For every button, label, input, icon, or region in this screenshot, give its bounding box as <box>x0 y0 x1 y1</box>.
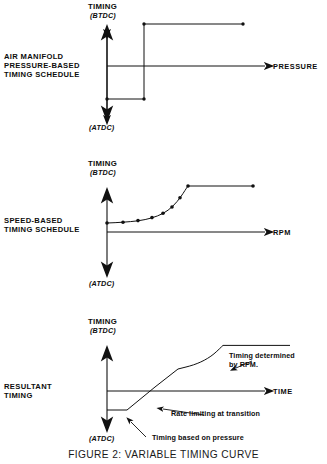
btdc-label-2: (BTDC) <box>90 168 116 177</box>
timing-axis-title-2: TIMING <box>88 159 117 168</box>
annotation-rate-limiting: Rate limiting at transition <box>171 410 260 419</box>
annotation-timing-by-rpm: Timing determined by RPM. <box>229 352 295 369</box>
atdc-label-1: (ATDC) <box>89 123 114 132</box>
time-axis-label: TIME <box>273 387 293 396</box>
row-label-air-manifold-pressure: AIR MANIFOLD PRESSURE-BASED TIMING SCHED… <box>4 52 80 80</box>
btdc-label-3: (BTDC) <box>90 326 116 335</box>
btdc-label-1: (BTDC) <box>90 11 116 20</box>
figure-caption: FIGURE 2: VARIABLE TIMING CURVE <box>0 449 327 460</box>
rpm-axis-label: RPM <box>273 228 291 237</box>
pressure-axis-label: PRESSURE <box>273 62 318 71</box>
panel-speed-based <box>101 184 265 278</box>
atdc-label-3: (ATDC) <box>89 434 114 443</box>
timing-axis-title-1: TIMING <box>88 2 117 11</box>
panel-air-manifold-pressure <box>101 22 265 122</box>
atdc-label-2: (ATDC) <box>89 279 114 288</box>
leader-timing-from-pressure <box>131 422 146 437</box>
row-label-resultant-timing: RESULTANT TIMING <box>4 382 52 400</box>
timing-axis-title-3: TIMING <box>88 317 117 326</box>
pressure-trace-markers <box>105 22 244 100</box>
annotation-timing-from-pressure: Timing based on pressure <box>152 434 244 443</box>
row-label-speed-based: SPEED-BASED TIMING SCHEDULE <box>4 216 80 234</box>
speed-trace-markers <box>105 184 255 225</box>
speed-curve-trace <box>107 186 253 223</box>
pressure-step-trace <box>107 24 243 99</box>
